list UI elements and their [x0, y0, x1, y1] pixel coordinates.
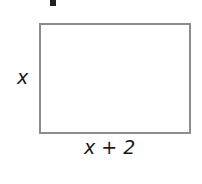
height-label: x [17, 68, 28, 87]
rectangle [39, 23, 191, 134]
cropped-glyph-fragment [50, 0, 56, 6]
width-label: x + 2 [84, 138, 135, 157]
